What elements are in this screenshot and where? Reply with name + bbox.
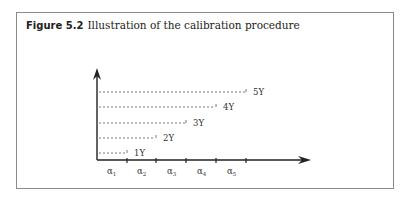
level-label-2y: 2Y [163, 133, 174, 143]
level-label-3y: 3Y [193, 118, 204, 128]
level-label-1y: 1Y [134, 148, 145, 158]
level-label-4y: 4Y [223, 102, 234, 112]
level-label-5y: 5Y [253, 87, 264, 97]
tick-label-alpha-5: α5 [227, 166, 237, 177]
tick-label-alpha-1: α1 [107, 166, 116, 177]
tick-label-alpha-3: α3 [167, 166, 177, 177]
calibration-diagram: 1Y 2Y 3Y 4Y 5Y α1 α2 α3 α4 α5 [0, 0, 412, 205]
level-end-marks [127, 89, 246, 153]
tick-label-alpha-2: α2 [137, 166, 146, 177]
tick-label-alpha-4: α4 [197, 166, 207, 177]
